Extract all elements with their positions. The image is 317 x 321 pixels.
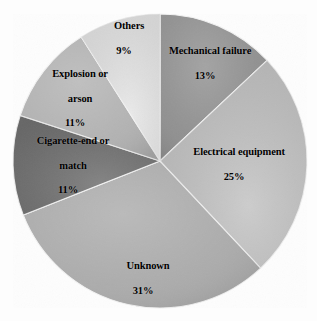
pie-chart-canvas [0,0,317,321]
pie-chart-figure: Mechanical failure 13% Electrical equipm… [0,0,317,321]
paper-grain-overlay [13,14,307,308]
